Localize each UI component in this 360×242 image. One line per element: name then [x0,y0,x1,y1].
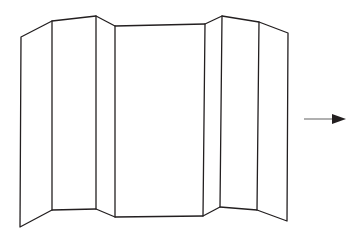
folded-panel-diagram [0,0,360,242]
panel-5-right-center [203,16,222,216]
panel-faces-group [20,16,288,227]
panel-4-center [115,24,205,217]
panel-1-left-outer [20,21,52,227]
panel-7-right-outer [257,22,288,221]
panel-3-left-center [96,16,115,217]
figure-canvas [0,0,360,242]
panel-2-left-inner [52,16,96,210]
panel-6-right-inner [220,16,259,210]
